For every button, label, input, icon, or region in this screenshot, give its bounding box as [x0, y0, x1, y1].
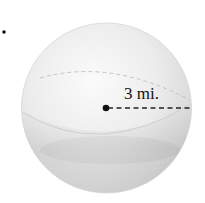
sphere-diagram: 3 mi.	[0, 0, 205, 203]
shadow-band	[40, 136, 180, 164]
center-point	[103, 105, 110, 112]
radius-label: 3 mi.	[124, 84, 159, 103]
bullet-dot	[2, 30, 6, 34]
